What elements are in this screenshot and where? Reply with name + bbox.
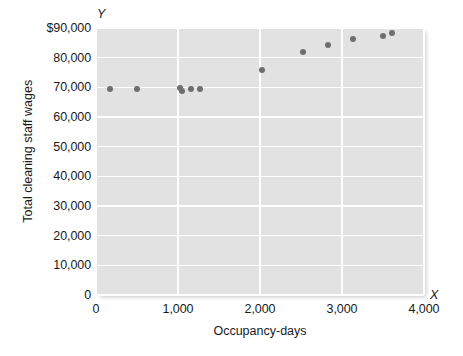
x-axis-tick-label: 3,000	[302, 303, 382, 316]
vertical-gridline	[177, 28, 179, 295]
data-point	[259, 67, 265, 73]
y-axis-tick-label: 70,000	[1, 81, 91, 94]
y-axis-letter-marker: Y	[97, 8, 105, 21]
vertical-gridline	[423, 28, 425, 295]
data-point	[325, 42, 331, 48]
y-axis-tick-label: 20,000	[1, 230, 91, 243]
x-axis-title: Occupancy-days	[96, 325, 424, 338]
vertical-gridline	[95, 28, 97, 295]
x-axis-tick-labels: 01,0002,0003,0004,000	[0, 303, 463, 323]
plot-area	[96, 28, 424, 295]
data-point	[389, 30, 395, 36]
data-point	[107, 86, 113, 92]
x-axis-tick-label: 2,000	[220, 303, 300, 316]
y-axis-tick-label: 60,000	[1, 111, 91, 124]
y-axis-tick-label: $90,000	[1, 22, 91, 35]
x-axis-letter-marker: X	[430, 289, 438, 302]
data-point	[134, 86, 140, 92]
data-point	[300, 49, 306, 55]
data-point	[179, 88, 185, 94]
y-axis-tick-label: 50,000	[1, 141, 91, 154]
y-axis-title: Total cleaning staff wages	[22, 51, 35, 251]
vertical-gridline	[341, 28, 343, 295]
y-axis-tick-label: 40,000	[1, 170, 91, 183]
data-point	[380, 33, 386, 39]
x-axis-tick-label: 0	[56, 303, 136, 316]
y-axis-tick-label: 10,000	[1, 259, 91, 272]
data-point	[350, 36, 356, 42]
y-axis-tick-label: 30,000	[1, 200, 91, 213]
y-axis-tick-label: 80,000	[1, 52, 91, 65]
data-point	[188, 86, 194, 92]
y-axis-tick-label: 0	[1, 289, 91, 302]
x-axis-tick-label: 1,000	[138, 303, 218, 316]
scatter-chart-figure: 010,00020,00030,00040,00050,00060,00070,…	[0, 0, 463, 356]
data-point	[197, 86, 203, 92]
x-axis-tick-label: 4,000	[384, 303, 463, 316]
